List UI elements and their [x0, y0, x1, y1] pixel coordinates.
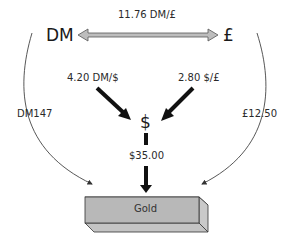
- node-dollar: $: [140, 112, 151, 132]
- gold-label: Gold: [134, 203, 157, 214]
- node-dm: DM: [46, 25, 74, 45]
- rate-dollar-per-pound: 2.80 $/£: [178, 72, 220, 83]
- node-pound: £: [223, 25, 234, 45]
- arrow-dollar-to-gold: [140, 133, 152, 193]
- double-arrow-dm-pound: [78, 29, 218, 41]
- rate-dm-per-dollar: 4.20 DM/$: [67, 72, 119, 83]
- rate-dm-per-pound: 11.76 DM/£: [118, 9, 176, 20]
- price-gold-dm: DM147: [17, 108, 52, 119]
- arrow-pound-to-dollar: [161, 88, 193, 121]
- price-gold-dollar: $35.00: [129, 150, 164, 161]
- arrow-dm-to-dollar: [97, 88, 131, 120]
- price-gold-pound: £12.50: [242, 108, 277, 119]
